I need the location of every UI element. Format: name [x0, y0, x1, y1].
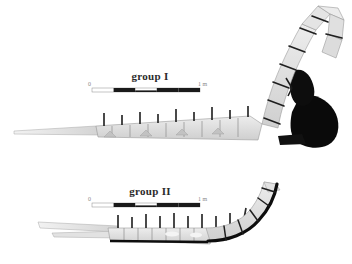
group-i-caudal-whip: [14, 126, 98, 135]
scale-seg-dark: [178, 88, 200, 92]
scale-seg-dark: [135, 90, 157, 92]
group-i-dark-mass-lower-tab: [278, 134, 306, 145]
scale-seg-dark: [157, 88, 179, 92]
scale-seg-dark: [114, 203, 136, 207]
scale-seg-dark: [114, 88, 136, 92]
group-ii-scale-zero-label: 0: [88, 196, 91, 202]
group-ii-ventral-outline: [110, 241, 208, 242]
figure-root: group I 0 1 m group II 0 1 m: [0, 0, 352, 264]
group-ii-scale-bar: [92, 203, 200, 207]
group-i-scale-bar: [92, 88, 200, 92]
group-ii-scale-max-label: 1 m: [198, 196, 207, 202]
group-i-title: group I: [108, 70, 192, 82]
scale-seg-dark: [157, 203, 179, 207]
scale-seg-dark: [178, 203, 200, 207]
scale-seg-dark: [135, 205, 157, 207]
group-ii-title: group II: [108, 185, 192, 197]
group-i-vertebral-band: [96, 116, 262, 140]
skeletal-diagram-svg: [0, 0, 352, 264]
group-i-scale-zero-label: 0: [88, 81, 91, 87]
group-ii-fork-upper: [38, 222, 118, 232]
group-i-scale-max-label: 1 m: [198, 81, 207, 87]
